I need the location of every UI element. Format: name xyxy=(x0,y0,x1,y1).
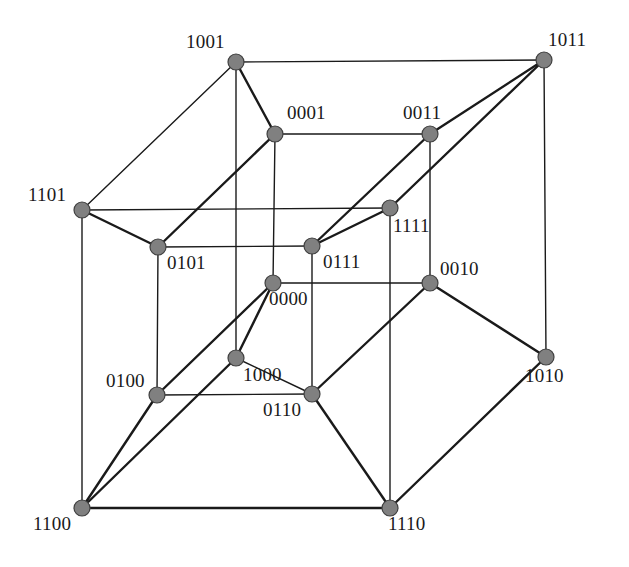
node-label-0110: 0110 xyxy=(263,400,301,419)
graph-node[interactable] xyxy=(536,52,552,68)
graph-node[interactable] xyxy=(74,202,90,218)
hypercube-graph-svg xyxy=(0,0,629,567)
graph-edge xyxy=(430,60,544,134)
graph-edge xyxy=(312,208,390,246)
node-label-1101: 1101 xyxy=(28,185,66,204)
node-label-0100: 0100 xyxy=(106,371,145,390)
graph-edge xyxy=(82,210,158,247)
graph-node[interactable] xyxy=(304,238,320,254)
graph-edge xyxy=(236,62,275,134)
graph-node[interactable] xyxy=(422,126,438,142)
graph-edge xyxy=(312,394,390,508)
node-label-0000: 0000 xyxy=(269,289,308,308)
node-label-1111: 1111 xyxy=(393,216,430,235)
node-label-1001: 1001 xyxy=(186,32,225,51)
node-label-0111: 0111 xyxy=(323,252,360,271)
graph-edge xyxy=(158,246,312,247)
graph-node[interactable] xyxy=(422,275,438,291)
graph-edge xyxy=(236,283,273,358)
node-label-0001: 0001 xyxy=(287,103,326,122)
node-label-1110: 1110 xyxy=(388,514,425,533)
graph-node[interactable] xyxy=(538,349,554,365)
graph-node[interactable] xyxy=(150,239,166,255)
graph-edge xyxy=(390,357,546,508)
graph-node[interactable] xyxy=(267,126,283,142)
node-label-0010: 0010 xyxy=(440,259,479,278)
graph-edge xyxy=(236,60,544,62)
node-label-1100: 1100 xyxy=(33,514,71,533)
graph-edge xyxy=(157,247,158,395)
graph-node[interactable] xyxy=(149,387,165,403)
node-label-1011: 1011 xyxy=(548,30,586,49)
graph-edge xyxy=(82,395,157,508)
graph-edge xyxy=(82,208,390,210)
graph-edge xyxy=(158,134,275,247)
edges-group xyxy=(82,60,546,508)
node-label-1000: 1000 xyxy=(243,365,282,384)
node-label-0101: 0101 xyxy=(167,253,206,272)
graph-node[interactable] xyxy=(382,200,398,216)
graph-node[interactable] xyxy=(228,350,244,366)
tesseract-diagram-canvas: 1001101100010011110111110101011100100000… xyxy=(0,0,629,567)
node-label-1010: 1010 xyxy=(525,366,564,385)
graph-node[interactable] xyxy=(304,386,320,402)
graph-node[interactable] xyxy=(228,54,244,70)
graph-edge xyxy=(312,283,430,394)
graph-edge xyxy=(544,60,546,357)
graph-edge xyxy=(430,283,546,357)
node-label-0011: 0011 xyxy=(403,103,441,122)
graph-edge xyxy=(157,394,312,395)
graph-node[interactable] xyxy=(74,500,90,516)
graph-edge xyxy=(82,62,236,210)
